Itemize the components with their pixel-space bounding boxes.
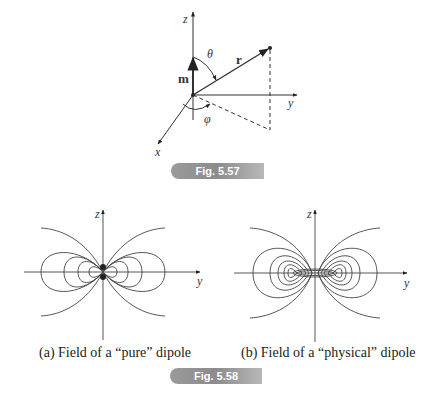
y-axis-label-a: y bbox=[196, 274, 203, 288]
caption-physical-dipole: (b) Field of a “physical” dipole bbox=[241, 345, 416, 361]
theta-label: θ bbox=[207, 47, 213, 61]
figure-badge-5-57: Fig. 5.57 bbox=[171, 163, 264, 179]
pure-dipole-field bbox=[24, 210, 200, 340]
caption-pure-dipole: (a) Field of a “pure” dipole bbox=[39, 345, 191, 361]
y-axis-label: y bbox=[287, 96, 294, 110]
physical-dipole-field bbox=[234, 210, 407, 342]
r-tip-point bbox=[268, 46, 272, 50]
figures-canvas: z y x m r θ φ z y bbox=[0, 0, 431, 397]
x-axis bbox=[158, 95, 193, 144]
x-axis-label: x bbox=[154, 145, 161, 159]
z-axis-label-b: z bbox=[306, 207, 312, 221]
phi-arc bbox=[183, 104, 210, 110]
m-label: m bbox=[178, 71, 189, 86]
y-axis-label-b: y bbox=[403, 276, 410, 290]
phi-label: φ bbox=[204, 112, 211, 126]
r-label: r bbox=[236, 52, 242, 67]
r-vector bbox=[193, 49, 268, 95]
z-axis-label: z bbox=[182, 12, 188, 26]
figure-badge-5-58: Fig. 5.58 bbox=[170, 368, 262, 384]
z-axis-label-a: z bbox=[94, 207, 100, 221]
